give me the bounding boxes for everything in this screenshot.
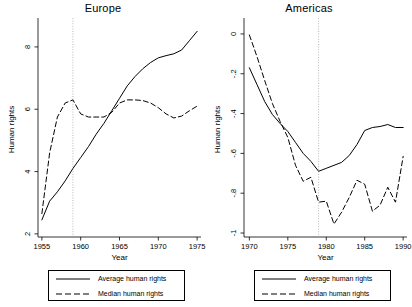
x-tick-label: 1975 <box>189 242 206 251</box>
legend-row-median: Median human rights <box>49 286 184 301</box>
x-tick-label: 1960 <box>72 242 89 251</box>
y-axis-label: Human rights <box>213 106 222 154</box>
y-axis-label: Human rights <box>7 106 16 154</box>
y-tick-label: 4 <box>23 169 32 173</box>
legend-sample-solid-icon <box>259 274 299 284</box>
panel-americas: Americas 0-.2-.4-.6-.8-11970197519801985… <box>206 0 412 265</box>
legend-label-median: Median human rights <box>299 290 369 297</box>
series-line <box>249 35 403 224</box>
x-tick-label: 1965 <box>111 242 128 251</box>
series-line <box>42 31 197 220</box>
y-tick-label: 6 <box>23 107 32 111</box>
y-tick-label: 0 <box>229 32 238 36</box>
y-tick-label: -.2 <box>229 69 238 78</box>
panel-europe: Europe 246819551960196519701975YearHuman… <box>0 0 206 265</box>
y-tick-label: 2 <box>23 232 32 236</box>
legend-americas: Average human rights Median human rights <box>254 270 391 301</box>
series-line <box>42 100 197 214</box>
x-tick-label: 1975 <box>279 242 296 251</box>
x-tick-label: 1970 <box>150 242 167 251</box>
x-tick-label: 1970 <box>241 242 258 251</box>
legend-row-median: Median human rights <box>255 286 390 301</box>
legend-sample-dashed-icon <box>259 289 299 299</box>
x-axis-label: Year <box>317 253 334 262</box>
x-tick-label: 1985 <box>356 242 373 251</box>
plot-area-americas: 0-.2-.4-.6-.8-119701975198019851990YearH… <box>206 0 412 265</box>
legend-sample-solid-icon <box>53 274 93 284</box>
x-tick-label: 1980 <box>318 242 335 251</box>
legend-row-average: Average human rights <box>255 271 390 286</box>
y-tick-label: 8 <box>23 45 32 49</box>
y-tick-label: -.6 <box>229 149 238 158</box>
x-tick-label: 1990 <box>395 242 412 251</box>
legend-label-average: Average human rights <box>299 275 372 282</box>
chart-figure: Europe 246819551960196519701975YearHuman… <box>0 0 412 307</box>
y-tick-label: -.4 <box>229 109 238 118</box>
x-axis-label: Year <box>111 253 128 262</box>
x-tick-label: 1955 <box>34 242 51 251</box>
legend-europe: Average human rights Median human rights <box>48 270 185 301</box>
y-tick-label: -.8 <box>229 189 238 198</box>
plot-area-europe: 246819551960196519701975YearHuman rights <box>0 0 206 265</box>
legend-sample-dashed-icon <box>53 289 93 299</box>
y-tick-label: -1 <box>229 230 238 237</box>
legend-row-average: Average human rights <box>49 271 184 286</box>
series-line <box>249 68 403 172</box>
legend-label-median: Median human rights <box>93 290 163 297</box>
legend-label-average: Average human rights <box>93 275 166 282</box>
